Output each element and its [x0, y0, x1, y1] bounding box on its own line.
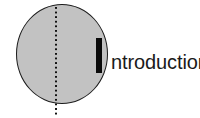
- gray-circle-shape: [16, 4, 108, 104]
- introduction-figure: ntroduction: [0, 0, 200, 118]
- section-title-label: ntroduction: [111, 50, 200, 74]
- vertical-dotted-line: [55, 7, 57, 116]
- bold-initial-letter-i-bar: [96, 38, 102, 73]
